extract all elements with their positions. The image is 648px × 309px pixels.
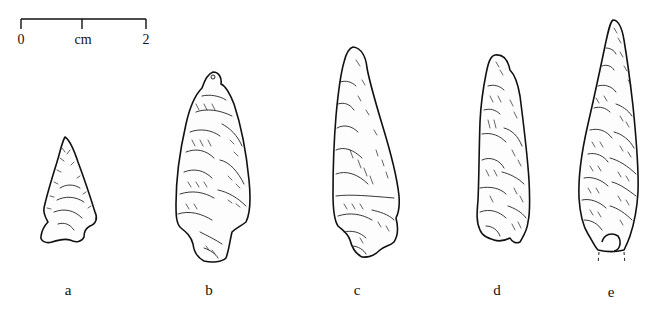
scale-bar xyxy=(21,19,146,29)
artifact-c-drawing xyxy=(333,47,399,257)
artifact-d-drawing xyxy=(477,55,530,243)
scale-unit-label: cm xyxy=(74,33,91,47)
artifact-c-label: c xyxy=(354,283,361,298)
scale-start-label: 0 xyxy=(18,33,25,47)
artifact-e-label: e xyxy=(608,285,615,300)
artifact-d-label: d xyxy=(493,283,501,298)
artifact-a-drawing xyxy=(41,137,96,243)
artifact-a-label: a xyxy=(65,283,72,298)
scale-end-label: 2 xyxy=(143,33,150,47)
artifact-e-drawing xyxy=(579,20,638,264)
figure-canvas xyxy=(0,0,648,309)
artifact-b-drawing xyxy=(176,72,250,262)
artifact-b-label: b xyxy=(205,283,213,298)
